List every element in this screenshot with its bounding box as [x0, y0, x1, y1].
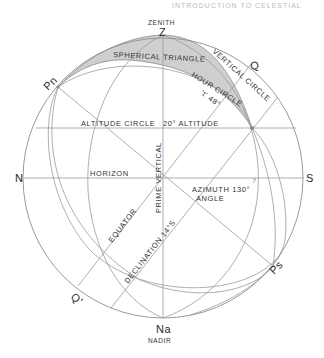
running-header: INTRODUCTION TO CELESTIAL — [172, 2, 302, 9]
star-position-dot — [250, 126, 254, 130]
azimuth-arrow-icon — [253, 179, 256, 183]
azimuth-angle-label: AZIMUTH 130° — [192, 185, 250, 194]
azimuth-angle-label-line2: ANGLE — [196, 194, 224, 203]
north-pole-dot — [56, 85, 59, 88]
declination-label: DECLINATION 14°S — [122, 218, 177, 285]
north-label: N — [15, 172, 24, 184]
horizon-label: HORIZON — [90, 169, 129, 178]
equator-top-label: Q — [249, 59, 260, 72]
equator-label: EQUATOR — [106, 207, 138, 245]
altitude-circle-label: ALTITUDE CIRCLE — [81, 119, 155, 128]
nadir-label: NADIR — [148, 337, 171, 344]
south-label: S — [306, 172, 314, 184]
south-pole-label: Ps — [267, 258, 285, 276]
altitude-value-label: 20° ALTITUDE — [163, 119, 219, 128]
spherical-triangle-region — [58, 35, 252, 128]
nadir-letter: Na — [156, 323, 172, 335]
zenith-label: ZENITH — [148, 19, 175, 26]
zenith-letter: Z — [159, 26, 166, 38]
east-arc — [190, 128, 286, 315]
prime-vertical-label: PRIME VERTICAL — [154, 142, 163, 213]
celestial-sphere-diagram: INTRODUCTION TO CELESTIAL ZENITH Z Na NA… — [0, 0, 324, 358]
